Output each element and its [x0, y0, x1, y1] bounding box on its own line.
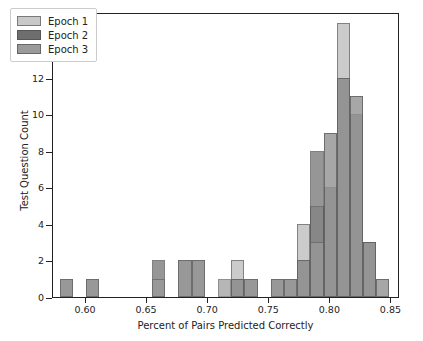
y-tick-label: 4 [38, 220, 44, 230]
y-tick-mark [46, 261, 52, 262]
legend-item-epoch-2[interactable]: Epoch 2 [17, 28, 88, 42]
x-tick-label: 0.75 [248, 305, 288, 315]
x-tick-label: 0.65 [126, 305, 166, 315]
x-axis-label: Percent of Pairs Predicted Correctly [52, 320, 399, 331]
legend-item-epoch-1[interactable]: Epoch 1 [17, 14, 88, 28]
histogram-bar [324, 133, 337, 297]
y-tick-label: 12 [32, 74, 44, 84]
x-tick-mark [85, 298, 86, 303]
x-tick-mark [268, 298, 269, 303]
x-tick-mark [207, 298, 208, 303]
chart-legend[interactable]: Epoch 1 Epoch 2 Epoch 3 [10, 8, 97, 62]
histogram-bar [244, 279, 257, 297]
histogram-bar [192, 260, 205, 297]
histogram-bar [231, 279, 244, 297]
y-tick-mark [46, 188, 52, 189]
histogram-bar [284, 279, 297, 297]
histogram-bar [178, 260, 191, 297]
legend-swatch-epoch-1 [17, 16, 41, 26]
y-axis-label: Test Question Count [19, 81, 30, 241]
x-tick-label: 0.85 [370, 305, 410, 315]
legend-item-epoch-3[interactable]: Epoch 3 [17, 42, 88, 56]
plot-axes [52, 13, 399, 298]
y-tick-label: 0 [38, 293, 44, 303]
x-tick-mark [329, 298, 330, 303]
histogram-bar [376, 279, 389, 297]
plot-area [53, 14, 398, 297]
histogram-bar [271, 279, 284, 297]
histogram-bar [337, 78, 350, 297]
y-tick-label: 6 [38, 183, 44, 193]
x-tick-label: 0.70 [187, 305, 227, 315]
x-tick-label: 0.80 [309, 305, 349, 315]
histogram-bar [86, 279, 99, 297]
legend-label-epoch-1: Epoch 1 [48, 16, 88, 27]
histogram-bar [350, 96, 363, 297]
legend-swatch-epoch-2 [17, 30, 41, 40]
x-tick-mark [146, 298, 147, 303]
y-tick-label: 2 [38, 256, 44, 266]
histogram-bar [60, 279, 73, 297]
legend-label-epoch-3: Epoch 3 [48, 44, 88, 55]
y-tick-mark [46, 115, 52, 116]
histogram-bar [218, 279, 231, 297]
y-tick-mark [46, 79, 52, 80]
y-tick-mark [46, 225, 52, 226]
histogram-bar [297, 260, 310, 297]
histogram-bar [152, 279, 165, 297]
legend-swatch-epoch-3 [17, 44, 41, 54]
histogram-figure: 02468101214 0.600.650.700.750.800.85 Per… [0, 0, 423, 341]
y-tick-label: 8 [38, 147, 44, 157]
y-tick-mark [46, 298, 52, 299]
legend-label-epoch-2: Epoch 2 [48, 30, 88, 41]
y-tick-label: 10 [32, 110, 44, 120]
x-tick-mark [390, 298, 391, 303]
x-tick-label: 0.60 [65, 305, 105, 315]
histogram-bar [363, 242, 376, 297]
histogram-bar [310, 242, 323, 297]
y-tick-mark [46, 152, 52, 153]
